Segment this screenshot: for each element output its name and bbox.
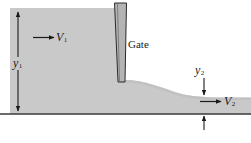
label-y1-subscript: 1 (18, 62, 22, 70)
label-v1-subscript: 1 (63, 36, 67, 44)
label-v2: V2 (224, 95, 235, 108)
label-y2: y2 (195, 64, 204, 77)
sluice-gate-figure: V1 y1 Gate y2 V2 (0, 0, 251, 143)
label-v2-subscript: 2 (231, 100, 235, 108)
label-y2-subscript: 2 (200, 69, 204, 77)
label-y1: y1 (12, 57, 23, 70)
figure-canvas (0, 0, 251, 143)
label-gate: Gate (128, 39, 149, 50)
label-v1: V1 (56, 31, 67, 44)
